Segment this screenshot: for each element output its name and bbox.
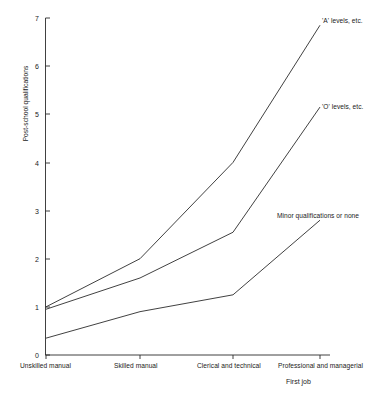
y-tick-label-5: 5 [35, 111, 39, 118]
series-label-minor-qualifications: Minor qualifications or none [277, 212, 359, 219]
x-category-label-unskilled-manual: Unskilled manual [20, 362, 71, 369]
y-axis-title: Post-school qualifications [22, 49, 29, 159]
x-category-label-clerical-and-technical: Clerical and technical [197, 362, 261, 369]
chart-figure: 7 6 5 4 3 2 1 0 Post-school qualificatio… [0, 0, 392, 400]
x-category-label-professional-and-managerial: Professional and managerial [278, 362, 363, 369]
series-line-minor-qualifications [46, 220, 320, 338]
y-tick-labels: 7 6 5 4 3 2 1 0 [35, 15, 39, 359]
y-tick-marks [46, 18, 51, 355]
x-tick-marks [46, 355, 320, 359]
x-category-label-skilled-manual: Skilled manual [114, 362, 158, 369]
y-tick-label-6: 6 [35, 63, 39, 70]
y-tick-label-2: 2 [35, 256, 39, 263]
y-tick-label-7: 7 [35, 15, 39, 22]
chart-plot-area: 7 6 5 4 3 2 1 0 [0, 0, 392, 400]
y-tick-label-3: 3 [35, 208, 39, 215]
series-line-o-levels [46, 107, 320, 309]
x-axis-title: First job [286, 378, 311, 385]
series-label-o-levels: 'O' levels, etc. [322, 103, 363, 110]
y-tick-label-4: 4 [35, 160, 39, 167]
y-tick-label-1: 1 [35, 304, 39, 311]
y-tick-label-0: 0 [35, 352, 39, 359]
series-label-a-levels: 'A' levels, etc. [322, 17, 363, 24]
